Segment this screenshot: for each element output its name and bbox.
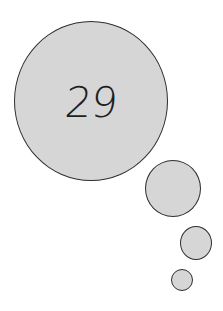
thought-bubble-main: 29 [14, 21, 168, 181]
bubble-number: 29 [13, 82, 169, 124]
thought-bubble-trail-medium [180, 226, 212, 260]
thought-bubble-trail-small [171, 269, 193, 291]
thought-bubble-trail-large [145, 160, 201, 217]
